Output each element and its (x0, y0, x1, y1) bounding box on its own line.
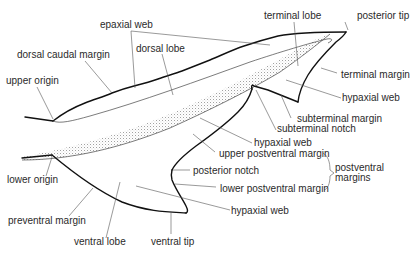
label-ventral-tip: ventral tip (151, 236, 195, 247)
labels: epaxial web terminal lobe posterior tip … (6, 10, 410, 247)
label-hypaxial-web-upper: hypaxial web (342, 92, 400, 103)
caudal-fin-diagram: epaxial web terminal lobe posterior tip … (0, 0, 413, 254)
label-upper-postventral-margin: upper postventral margin (219, 148, 330, 159)
label-dorsal-lobe: dorsal lobe (136, 43, 185, 54)
label-lower-postventral-margin: lower postventral margin (220, 183, 329, 194)
label-upper-origin: upper origin (6, 75, 59, 86)
label-posterior-notch: posterior notch (193, 165, 259, 176)
label-terminal-lobe: terminal lobe (264, 10, 322, 21)
label-ventral-lobe: ventral lobe (74, 236, 126, 247)
label-posterior-tip: posterior tip (357, 10, 410, 21)
label-hypaxial-web-middle: hypaxial web (254, 137, 312, 148)
label-terminal-margin: terminal margin (341, 69, 410, 80)
label-subterminal-notch: subterminal notch (277, 123, 356, 134)
label-hypaxial-web-lower: hypaxial web (231, 205, 289, 216)
label-dorsal-caudal-margin: dorsal caudal margin (17, 49, 110, 60)
diagram-canvas: epaxial web terminal lobe posterior tip … (0, 0, 413, 254)
label-postventral-margins-2: margins (335, 172, 371, 183)
label-epaxial-web: epaxial web (100, 19, 153, 30)
label-lower-origin: lower origin (7, 174, 58, 185)
label-preventral-margin: preventral margin (8, 215, 86, 226)
